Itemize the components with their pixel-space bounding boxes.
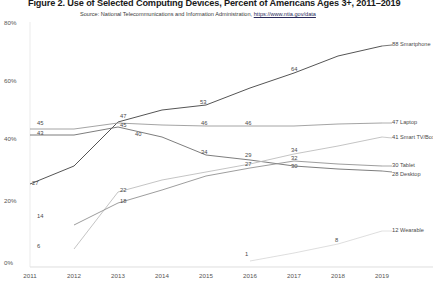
series-end-value: 12 bbox=[392, 227, 398, 233]
data-label: 29 bbox=[245, 152, 251, 158]
series-label-wearable: 12 Wearable bbox=[392, 227, 424, 233]
data-label: 18 bbox=[120, 198, 126, 204]
plot-area bbox=[0, 0, 433, 286]
series-end-value: 28 bbox=[392, 171, 398, 177]
series-end-name: Wearable bbox=[400, 227, 424, 233]
series-end-name: Laptop bbox=[400, 119, 417, 125]
endcap-smart-tv-box bbox=[382, 137, 392, 138]
data-label: 47 bbox=[120, 113, 126, 119]
series-end-name: Tablet bbox=[400, 162, 415, 168]
endcap-smartphone bbox=[382, 45, 392, 46]
data-label: 46 bbox=[201, 120, 207, 126]
series-end-value: 41 bbox=[392, 134, 398, 140]
series-line-wearable bbox=[250, 231, 382, 261]
data-label: 34 bbox=[291, 147, 297, 153]
data-label: 46 bbox=[245, 120, 251, 126]
data-label: 34 bbox=[201, 149, 207, 155]
data-label: 64 bbox=[291, 66, 297, 72]
data-label: 27 bbox=[245, 161, 251, 167]
series-end-value: 47 bbox=[392, 119, 398, 125]
series-label-smart-tv-box: 41 Smart TV/Box bbox=[392, 134, 433, 140]
series-end-name: Smart TV/Box bbox=[400, 134, 433, 140]
data-label: 45 bbox=[120, 122, 126, 128]
series-line-smart-tv-box bbox=[74, 137, 382, 249]
figure-container: Figure 2. Use of Selected Computing Devi… bbox=[0, 0, 433, 286]
series-end-name: Desktop bbox=[400, 171, 421, 177]
data-label: 6 bbox=[37, 243, 40, 249]
series-end-name: Smartphone bbox=[400, 41, 430, 47]
data-label: 22 bbox=[120, 187, 126, 193]
data-label: 32 bbox=[291, 155, 297, 161]
series-end-value: 88 bbox=[392, 41, 398, 47]
data-label: 45 bbox=[37, 120, 43, 126]
series-label-smartphone: 88 Smartphone bbox=[392, 41, 431, 47]
series-label-laptop: 47 Laptop bbox=[392, 119, 417, 125]
data-label: 8 bbox=[335, 237, 338, 243]
data-label: 40 bbox=[135, 131, 141, 137]
data-label: 1 bbox=[245, 251, 248, 257]
data-label: 53 bbox=[200, 99, 206, 105]
data-label: 14 bbox=[37, 213, 43, 219]
series-label-tablet: 30 Tablet bbox=[392, 162, 415, 168]
data-label: 43 bbox=[37, 130, 43, 136]
data-label: 30 bbox=[291, 163, 297, 169]
series-label-desktop: 28 Desktop bbox=[392, 171, 421, 177]
series-end-value: 30 bbox=[392, 162, 398, 168]
series-line-tablet bbox=[74, 161, 382, 225]
data-label: 27 bbox=[32, 180, 38, 186]
endcap-desktop bbox=[382, 171, 392, 172]
